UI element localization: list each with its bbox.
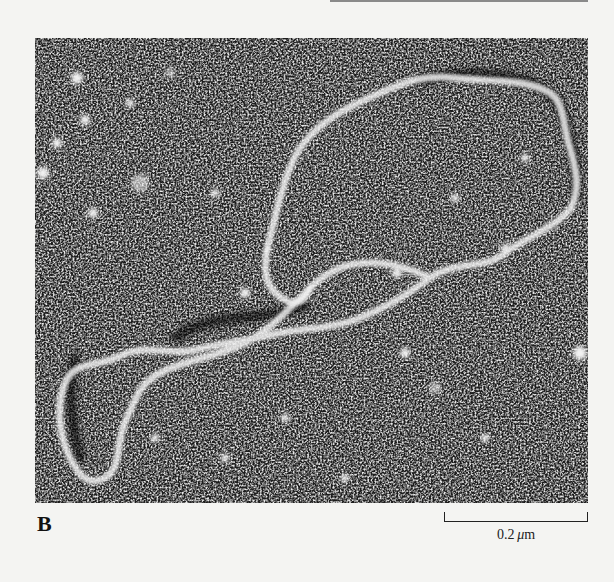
panel-label: B <box>37 511 52 537</box>
electron-micrograph <box>35 38 588 503</box>
scale-bar <box>444 512 588 522</box>
top-rule-divider <box>330 0 588 2</box>
scale-unit: m <box>524 527 535 542</box>
scale-value: 0.2 <box>497 527 515 542</box>
scale-bar-label: 0.2 μm <box>444 527 588 543</box>
